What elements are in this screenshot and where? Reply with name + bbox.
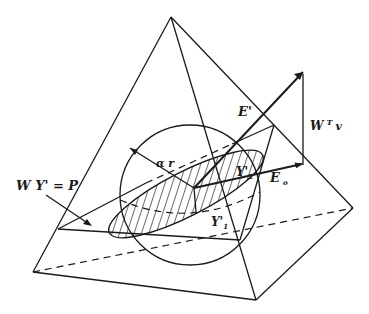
edge-left-front: [33, 272, 256, 300]
label-e: E: [269, 170, 281, 185]
edge-apex-left: [33, 17, 171, 272]
plane-pointer-arrowhead: [83, 219, 92, 226]
plane-pointer-line: [46, 195, 89, 224]
label-w-t-v: WTv: [310, 117, 342, 133]
label-o-sub: o: [283, 178, 288, 187]
label-y1: Y'1: [211, 215, 228, 231]
pyramid-sphere-diagram: W Y' = P α r E' WTv Eo Y'2 Y'1: [0, 0, 369, 314]
label-w: W: [310, 119, 325, 133]
label-e-prime: E': [237, 104, 252, 119]
label-y1-sub: 1: [223, 222, 228, 231]
pyramid: [33, 17, 353, 300]
label-t-sup: T: [326, 117, 333, 127]
label-e-o: Eo: [269, 170, 288, 187]
label-y1-main: Y': [211, 215, 223, 229]
label-y2-sub: 2: [247, 172, 253, 181]
label-radius: α r: [156, 157, 175, 170]
edge-front-right: [256, 208, 353, 300]
label-plane: W Y' = P: [16, 178, 79, 193]
label-y2-main: Y': [236, 165, 248, 179]
label-v: v: [335, 120, 342, 133]
